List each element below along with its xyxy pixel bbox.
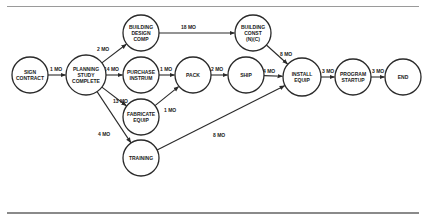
duration-label: 1 MO — [164, 107, 176, 113]
node-fab: FABRICATEEQUIP — [123, 99, 159, 135]
duration-label: 3 MO — [372, 68, 384, 74]
edge-plan-pur: 14 MO — [104, 66, 123, 75]
edge-sign-plan: 1 MO — [48, 66, 66, 75]
duration-label: 1 MO — [160, 66, 172, 72]
node-sign: SIGNCONTRACT — [12, 57, 48, 93]
node-label: END — [398, 74, 409, 80]
pert-diagram: 1 MO2 MO14 MO13 MO4 MO18 MO1 MO1 MO2 MO8… — [0, 0, 425, 217]
node-label: STARTUP — [341, 77, 365, 83]
node-label: TRAINING — [129, 155, 153, 161]
node-label: EQUIP — [133, 117, 149, 123]
edge-bdc-bcn: 18 MO — [159, 24, 235, 33]
node-label: (N)(C) — [246, 36, 260, 42]
arrow-line — [157, 86, 285, 150]
node-prog: PROGRAMSTARTUP — [335, 59, 371, 95]
node-ship: SHIP — [228, 57, 264, 93]
edge-ship-inst: 4 MO — [263, 68, 283, 76]
duration-label: 3 MO — [322, 68, 334, 74]
duration-label: 8 MO — [213, 132, 225, 138]
nodes-layer: SIGNCONTRACTPLANNINGSTUDYCOMPLETEBUILDIN… — [12, 15, 421, 176]
edge-plan-bdc: 2 MO — [97, 44, 126, 63]
duration-label: 2 MO — [97, 46, 109, 52]
node-label: COMP — [134, 36, 150, 42]
edge-plan-fab: 13 MO — [102, 87, 128, 106]
node-plan: PLANNINGSTUDYCOMPLETE — [66, 55, 106, 95]
node-pack: PACK — [175, 57, 211, 93]
edge-inst-prog: 3 MO — [321, 68, 335, 77]
edge-prog-end: 3 MO — [371, 68, 385, 77]
node-inst: INSTALLEQUIP — [283, 58, 321, 96]
duration-label: 13 MO — [113, 98, 128, 104]
node-label: SHIP — [240, 72, 252, 78]
duration-label: 2 MO — [211, 66, 223, 72]
node-bcn: BUILDINGCONST(N)(C) — [235, 15, 271, 51]
node-label: EQUIP — [294, 77, 310, 83]
edge-train-inst: 8 MO — [157, 86, 285, 150]
node-label: CONTRACT — [16, 75, 44, 81]
node-label: PACK — [186, 72, 200, 78]
arrow-line — [264, 76, 283, 77]
duration-label: 1 MO — [50, 66, 62, 72]
duration-label: 4 MO — [263, 68, 275, 74]
node-pur: PURCHASEINSTRUM — [123, 57, 159, 93]
duration-label: 18 MO — [181, 24, 196, 30]
node-label: COMPLETE — [72, 78, 100, 84]
node-bdc: BUILDINGDESIGNCOMP — [123, 15, 159, 51]
duration-label: 4 MO — [98, 131, 110, 137]
node-train: TRAINING — [123, 140, 159, 176]
arrow-line — [155, 87, 179, 106]
edge-pack-ship: 2 MO — [211, 66, 228, 75]
edge-bcn-inst: 8 MO — [266, 45, 292, 64]
duration-label: 8 MO — [280, 51, 292, 57]
edge-fab-pack: 1 MO — [155, 87, 179, 113]
node-end: END — [385, 59, 421, 95]
edge-pur-pack: 1 MO — [159, 66, 175, 75]
node-label: INSTRUM — [130, 75, 153, 81]
